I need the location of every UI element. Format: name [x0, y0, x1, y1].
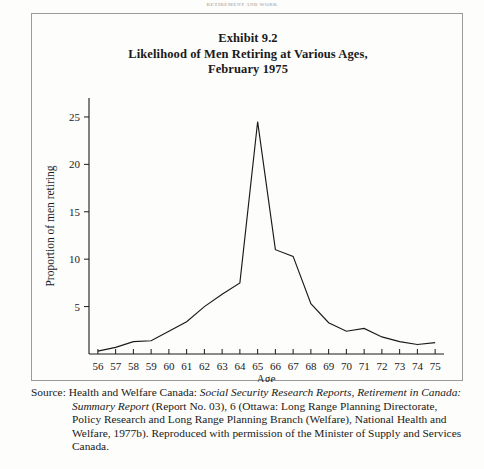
source-note: Source: Health and Welfare Canada: Socia… — [31, 386, 467, 454]
running-head: RETIREMENT AND WORK — [0, 0, 484, 10]
x-tick-label: 58 — [128, 360, 140, 372]
y-axis-tick-labels: 510152025 — [69, 111, 81, 313]
figure-frame: Exhibit 9.2 Likelihood of Men Retiring a… — [31, 13, 463, 381]
x-tick-label: 65 — [252, 360, 264, 372]
x-tick-label: 56 — [92, 360, 104, 372]
x-tick-label: 57 — [110, 360, 122, 372]
y-tick-label: 15 — [69, 206, 81, 218]
chart-plot-area: 510152025 565758596061626364656667686970… — [32, 14, 464, 382]
y-tick-label: 25 — [69, 111, 81, 123]
x-tick-label: 72 — [376, 360, 387, 372]
data-series-line — [98, 122, 435, 351]
x-axis-ticks — [98, 349, 435, 354]
x-tick-label: 63 — [217, 360, 229, 372]
x-tick-label: 69 — [323, 360, 335, 372]
source-label: Source: — [31, 386, 66, 398]
x-tick-label: 73 — [394, 360, 406, 372]
x-tick-label: 60 — [163, 360, 175, 372]
x-tick-label: 62 — [199, 360, 210, 372]
y-axis-title: Proportion of men retiring — [44, 165, 57, 286]
x-tick-label: 66 — [270, 360, 282, 372]
x-axis-tick-labels: 5657585960616263646566676869707172737475 — [92, 360, 441, 372]
x-tick-label: 75 — [430, 360, 442, 372]
x-tick-label: 67 — [288, 360, 300, 372]
x-axis-title: Age — [256, 373, 275, 382]
y-tick-label: 10 — [69, 253, 81, 265]
x-tick-label: 70 — [341, 360, 353, 372]
y-axis-ticks — [84, 117, 89, 307]
x-tick-label: 71 — [359, 360, 370, 372]
x-tick-label: 61 — [181, 360, 192, 372]
y-tick-label: 20 — [69, 158, 81, 170]
x-tick-label: 64 — [234, 360, 246, 372]
x-tick-label: 59 — [146, 360, 158, 372]
y-tick-label: 5 — [75, 301, 81, 313]
retirement-likelihood-line-chart: 510152025 565758596061626364656667686970… — [32, 14, 464, 382]
x-tick-label: 74 — [412, 360, 424, 372]
x-tick-label: 68 — [305, 360, 317, 372]
source-text: Health and Welfare Canada: Social Securi… — [66, 386, 461, 452]
